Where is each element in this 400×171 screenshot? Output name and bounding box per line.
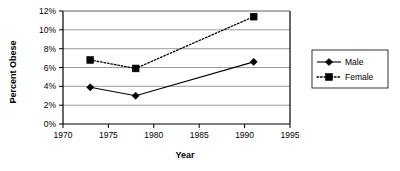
x-tick-label-1975: 1975 <box>99 130 118 140</box>
x-tick-label-1995: 1995 <box>281 130 300 140</box>
y-tick-label-2: 2% <box>44 100 57 110</box>
legend-item-female[interactable]: Female <box>317 72 374 82</box>
obesity-line-chart: 12% 10% 8% 6% 4% 2% 0% 1970 1975 1980 19… <box>0 0 400 171</box>
legend-female-label: Female <box>345 72 374 82</box>
data-point-male-1973 <box>87 84 94 91</box>
data-point-female-1978 <box>132 65 139 72</box>
y-tick-label-8: 8% <box>44 44 57 54</box>
y-tick-label-6: 6% <box>44 63 57 73</box>
series-female-markers <box>87 13 257 72</box>
x-tick-label-1990: 1990 <box>235 130 254 140</box>
legend-female-square-icon <box>326 74 333 81</box>
legend: Male Female <box>312 50 388 88</box>
series-female-line <box>90 17 253 69</box>
x-axis-title: Year <box>175 150 195 160</box>
data-point-female-1973 <box>87 57 94 64</box>
y-axis-title: Percent Obese <box>8 40 18 103</box>
series-female <box>87 13 257 72</box>
x-tick-label-1970: 1970 <box>54 130 73 140</box>
chart-canvas: 12% 10% 8% 6% 4% 2% 0% 1970 1975 1980 19… <box>0 0 400 171</box>
legend-male-label: Male <box>345 57 364 67</box>
x-tick-labels: 1970 1975 1980 1985 1990 1995 <box>54 130 300 140</box>
y-tick-labels: 12% 10% 8% 6% 4% 2% 0% <box>39 6 56 129</box>
legend-box <box>312 50 388 88</box>
x-tick-label-1985: 1985 <box>190 130 209 140</box>
data-point-male-1978 <box>132 92 139 99</box>
data-point-female-1991 <box>250 13 257 20</box>
y-tick-label-12: 12% <box>39 6 56 16</box>
data-point-male-1991 <box>250 58 257 65</box>
y-tick-label-10: 10% <box>39 25 56 35</box>
series-male-line <box>90 62 253 96</box>
y-tick-label-4: 4% <box>44 81 57 91</box>
gridlines <box>63 11 290 105</box>
x-tick-label-1980: 1980 <box>144 130 163 140</box>
y-tick-label-0: 0% <box>44 119 57 129</box>
